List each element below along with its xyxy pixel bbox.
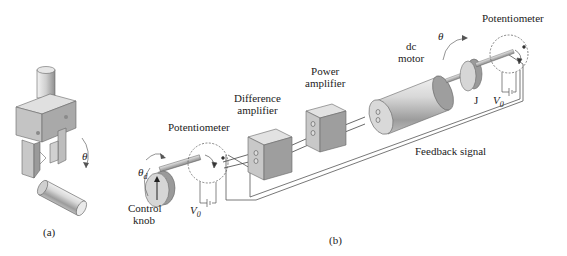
dc-motor [365,73,458,138]
difference-amplifier [248,129,292,180]
control-knob-label: Controlknob [128,202,162,226]
inertia-j-label: J [474,94,478,106]
panel-a-caption: (a) [43,226,55,238]
output-potentiometer [490,35,528,96]
panel-b-caption: (b) [329,234,342,246]
power-amplifier [306,104,346,152]
diagram-graphics [0,0,567,256]
gripper-illustration [16,67,89,218]
inertia-load [443,35,514,91]
output-potentiometer-label: Potentiometer [482,12,544,24]
theta-output-label: θ [438,30,443,42]
servo-system-diagram: θ (a) Potentiometer θd Controlknob V0 Di… [0,0,567,256]
control-knob [144,153,200,207]
input-potentiometer-label: Potentiometer [168,121,230,133]
output-v0-label: V0 [493,94,504,111]
dc-motor-label: dcmotor [398,40,424,64]
input-potentiometer [188,143,228,207]
theta-d-label: θd [138,166,147,183]
difference-amplifier-label: Differenceamplifier [234,92,281,116]
power-amplifier-label: Poweramplifier [305,65,345,89]
input-v0-label: V0 [190,204,201,221]
gripper-angle-label: θ [82,150,87,162]
feedback-signal-label: Feedback signal [415,145,486,157]
